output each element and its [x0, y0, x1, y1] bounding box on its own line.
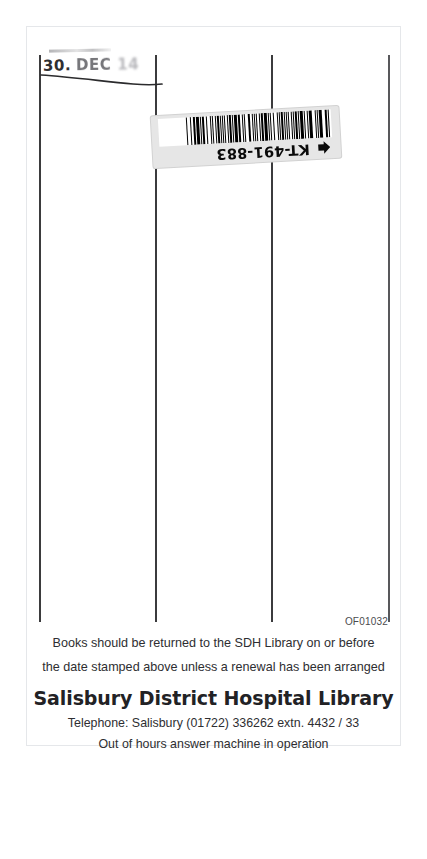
- barcode-bar: [328, 109, 331, 137]
- barcode-bar: [206, 116, 209, 144]
- stamp-cancellation-stroke: [41, 72, 163, 86]
- library-name: Salisbury District Hospital Library: [27, 683, 400, 713]
- barcode-bar: [273, 112, 276, 140]
- barcode-bar: [238, 114, 242, 142]
- scanned-date-due-card: 30.DEC14 KT-491-883 OF01032 Books should…: [27, 27, 400, 745]
- stamp-smudge-line: [49, 48, 111, 52]
- stamp-year: 14: [117, 55, 139, 73]
- return-notice-line-2: the date stamped above unless a renewal …: [27, 655, 400, 679]
- date-stamp: 30.DEC14: [43, 48, 163, 88]
- barcode-bar: [248, 114, 252, 142]
- arrow-pointer-icon: [316, 141, 332, 156]
- after-hours-line: Out of hours answer machine in operation: [27, 734, 400, 755]
- footer-imprint: Books should be returned to the SDH Libr…: [27, 631, 400, 755]
- barcode-bar: [319, 110, 324, 138]
- telephone-line: Telephone: Salisbury (01722) 336262 extn…: [27, 713, 400, 734]
- barcode-bar: [190, 117, 193, 145]
- barcode-bar: [309, 110, 314, 138]
- column-rule-4: [388, 55, 390, 622]
- barcode-bar: [288, 112, 291, 140]
- barcode-label: KT-491-883: [151, 106, 342, 168]
- reference-code: OF01032: [345, 616, 388, 627]
- column-rule-1: [39, 55, 41, 622]
- barcode-label-face: KT-491-883: [151, 106, 342, 168]
- barcode-bar: [186, 117, 189, 145]
- barcode-number-text: KT-491-883: [216, 142, 310, 162]
- barcode-bar: [202, 116, 206, 144]
- return-notice-line-1: Books should be returned to the SDH Libr…: [27, 631, 400, 655]
